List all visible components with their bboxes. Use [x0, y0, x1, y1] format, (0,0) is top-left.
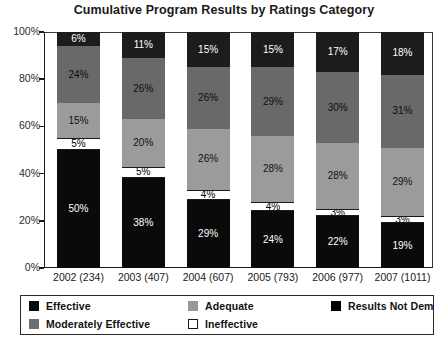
bar-segment-label: 50% — [68, 204, 88, 214]
bar-segment-label: 17% — [328, 47, 348, 57]
bar-segment-label: 26% — [198, 154, 218, 164]
bar-segment-label: 15% — [198, 45, 218, 55]
bar-segment[interactable]: 22% — [316, 216, 359, 268]
bar-segment[interactable]: 15% — [187, 32, 230, 67]
bar-segment[interactable]: 26% — [122, 58, 165, 119]
bar-segment[interactable]: 15% — [57, 103, 100, 138]
bar-segment-label: 28% — [328, 171, 348, 181]
bar-2005[interactable]: 24%4%28%29%15% — [251, 32, 294, 268]
legend-swatch-icon — [29, 319, 39, 329]
chart-legend: EffectiveAdequateResults Not Demonstrate… — [20, 295, 434, 335]
bar-segment-label: 4% — [266, 202, 280, 211]
legend-item[interactable]: Effective — [29, 300, 91, 312]
bar-segment[interactable]: 38% — [122, 178, 165, 268]
legend-item[interactable]: Ineffective — [188, 318, 258, 330]
bar-segment[interactable]: 15% — [251, 32, 294, 67]
y-axis-tick-label: 0% — [0, 261, 40, 273]
bar-segment-label: 22% — [328, 237, 348, 247]
chart-container: Cumulative Program Results by Ratings Ca… — [0, 0, 448, 343]
bar-segment[interactable]: 29% — [251, 67, 294, 135]
bar-segment[interactable]: 11% — [122, 32, 165, 58]
legend-item-label: Moderately Effective — [46, 318, 150, 330]
bar-segment-label: 29% — [198, 229, 218, 239]
legend-item-label: Effective — [46, 300, 91, 312]
bar-segment[interactable]: 3% — [316, 209, 359, 216]
bar-segment[interactable]: 3% — [381, 216, 424, 223]
bar-segment[interactable]: 24% — [57, 46, 100, 103]
legend-swatch-icon — [188, 319, 198, 329]
x-axis-tick-label: 2003 (407) — [108, 271, 178, 283]
bar-segment[interactable]: 4% — [251, 202, 294, 211]
bar-segment[interactable]: 19% — [381, 223, 424, 268]
bar-2007[interactable]: 19%3%29%31%18% — [381, 32, 424, 268]
bar-segment[interactable]: 29% — [187, 200, 230, 268]
x-axis-tick-label: 2007 (1011) — [368, 271, 438, 283]
legend-swatch-icon — [331, 301, 341, 311]
y-axis-tick-label: 20% — [0, 214, 40, 226]
y-axis-tick-label: 80% — [0, 72, 40, 84]
bar-segment-label: 31% — [392, 106, 412, 116]
legend-item[interactable]: Results Not Demonstrated — [331, 300, 434, 312]
bar-2006[interactable]: 22%3%28%30%17% — [316, 32, 359, 268]
bar-segment-label: 19% — [392, 241, 412, 251]
bar-segment[interactable]: 50% — [57, 150, 100, 268]
legend-item[interactable]: Moderately Effective — [29, 318, 150, 330]
bar-segment-label: 24% — [68, 70, 88, 80]
bar-2003[interactable]: 38%5%20%26%11% — [122, 32, 165, 268]
bar-segment-label: 3% — [330, 209, 344, 216]
bar-segment[interactable]: 28% — [251, 136, 294, 202]
legend-item-label: Results Not Demonstrated — [348, 300, 434, 312]
y-axis-tick-label: 100% — [0, 25, 40, 37]
bar-segment-label: 11% — [134, 40, 153, 50]
bar-segment[interactable]: 26% — [187, 67, 230, 128]
bar-segment-label: 3% — [395, 216, 409, 223]
bar-segment[interactable]: 31% — [381, 75, 424, 148]
bar-segment[interactable]: 29% — [381, 148, 424, 216]
bar-segment-label: 38% — [133, 218, 153, 228]
bar-segment[interactable]: 28% — [316, 143, 359, 209]
bar-segment-label: 30% — [328, 103, 348, 113]
bar-segment-label: 29% — [263, 97, 283, 107]
bar-segment-label: 26% — [133, 84, 153, 94]
legend-item-label: Ineffective — [205, 318, 258, 330]
x-axis-tick-label: 2004 (607) — [173, 271, 243, 283]
bar-segment-label: 20% — [133, 138, 153, 148]
bar-segment-label: 18% — [392, 48, 412, 58]
legend-swatch-icon — [29, 301, 39, 311]
bar-segment[interactable]: 17% — [316, 32, 359, 72]
bar-segment[interactable]: 6% — [57, 32, 100, 46]
bar-segment-label: 24% — [263, 235, 283, 245]
bar-segment[interactable]: 5% — [122, 167, 165, 179]
legend-item[interactable]: Adequate — [188, 300, 254, 312]
bar-segment[interactable]: 4% — [187, 190, 230, 199]
bar-segment-label: 5% — [71, 139, 85, 149]
bar-segment[interactable]: 24% — [251, 211, 294, 268]
chart-title: Cumulative Program Results by Ratings Ca… — [0, 3, 448, 17]
x-axis-tick-label: 2006 (977) — [303, 271, 373, 283]
bar-segment-label: 6% — [71, 34, 85, 44]
bar-segment-label: 4% — [201, 190, 215, 199]
bar-segment[interactable]: 20% — [122, 119, 165, 166]
bar-2004[interactable]: 29%4%26%26%15% — [187, 32, 230, 268]
legend-swatch-icon — [188, 301, 198, 311]
bar-segment-label: 15% — [263, 45, 283, 55]
bar-segment-label: 15% — [68, 116, 88, 126]
bar-segment[interactable]: 30% — [316, 72, 359, 143]
bar-segment[interactable]: 5% — [57, 138, 100, 150]
bar-segment-label: 28% — [263, 164, 283, 174]
bar-segment-label: 29% — [392, 177, 412, 187]
y-axis-tick-label: 40% — [0, 167, 40, 179]
bars-layer: 50%5%15%24%6%38%5%20%26%11%29%4%26%26%15… — [44, 32, 433, 268]
y-axis-tick-label: 60% — [0, 119, 40, 131]
bar-segment[interactable]: 26% — [187, 129, 230, 190]
x-axis-tick-label: 2002 (234) — [44, 271, 114, 283]
legend-item-label: Adequate — [205, 300, 254, 312]
bar-2002[interactable]: 50%5%15%24%6% — [57, 32, 100, 268]
x-axis-tick-label: 2005 (793) — [238, 271, 308, 283]
bar-segment[interactable]: 18% — [381, 32, 424, 74]
bar-segment-label: 26% — [198, 93, 218, 103]
bar-segment-label: 5% — [136, 167, 150, 177]
